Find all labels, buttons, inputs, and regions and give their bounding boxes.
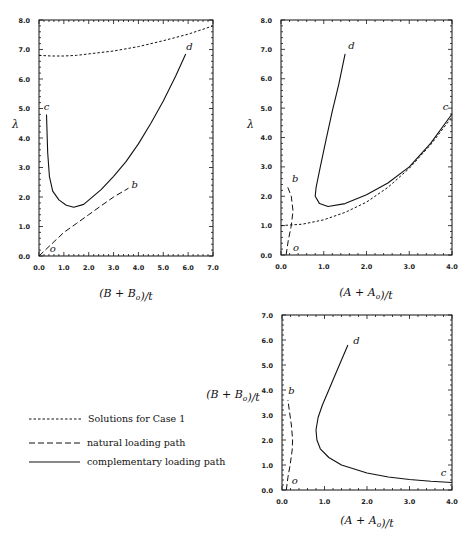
x-tick-label: 2.0 [361,263,373,271]
legend-label-complementary: complementary loading path [87,456,225,467]
y-tick-label: 3.0 [261,412,273,420]
y-tick-label: 8.0 [18,17,30,25]
y-tick-label: 7.0 [261,312,273,320]
x-tick-label: 3.0 [404,498,416,506]
point-label-c: c [44,101,50,112]
legend-label-case1: Solutions for Case 1 [88,413,185,424]
point-label-d: d [348,40,354,51]
plot-frame [39,20,213,256]
y-tick-label: 3.0 [260,163,272,171]
y-tick-label: 4.0 [260,134,272,142]
y-tick-label: 8.0 [260,17,272,25]
y-tick-label: 4.0 [261,387,273,395]
chart-b-vs-a: 0.01.02.03.04.00.01.02.03.04.05.06.07.0(… [206,312,458,530]
x-tick-label: 4.0 [133,264,145,272]
y-tick-label: 5.0 [18,105,30,113]
x-tick-label: 4.0 [446,263,458,271]
y-tick-label: 3.0 [18,164,30,172]
x-tick-label: 2.0 [361,498,373,506]
point-label-c: c [441,467,447,478]
y-axis-label: λ [11,118,19,131]
legend-item-complementary: complementary loading path [29,456,225,467]
point-label-d: d [353,335,359,346]
y-tick-label: 5.0 [261,362,273,370]
x-tick-label: 1.0 [58,264,70,272]
chart-lambda-vs-a: 0.01.02.03.04.00.01.02.03.04.05.06.07.08… [246,17,458,302]
y-tick-label: 6.0 [18,76,30,84]
y-tick-label: 2.0 [261,437,273,445]
series-solid [316,345,452,483]
y-tick-label: 0.0 [260,252,272,260]
x-axis-label: (A + Ao)/t [340,514,394,530]
y-tick-label: 1.0 [18,223,30,231]
y-tick-label: 7.0 [260,46,272,54]
point-label-o: o [50,243,56,254]
y-tick-label: 6.0 [260,75,272,83]
plot-frame [281,20,452,255]
y-tick-label: 0.0 [261,487,273,495]
x-tick-label: 0.0 [276,498,288,506]
y-axis-label: λ [246,118,254,131]
x-axis-label: (B + Bo)/t [99,287,153,303]
point-label-o: o [292,475,298,486]
y-tick-label: 7.0 [18,46,30,54]
point-label-b: b [292,173,298,184]
tick-marks [282,315,452,490]
legend-item-case1: Solutions for Case 1 [29,413,185,424]
x-tick-label: 5.0 [158,264,170,272]
y-tick-label: 5.0 [260,105,272,113]
y-tick-label: 1.0 [261,462,273,470]
y-axis-label: (B + Bo)/t [206,388,260,404]
x-tick-label: 0.0 [275,263,287,271]
x-tick-label: 3.0 [108,264,120,272]
x-tick-label: 1.0 [319,498,331,506]
tick-marks [39,20,213,256]
tick-marks [281,20,452,255]
point-label-d: d [186,41,192,52]
legend-label-natural: natural loading path [87,437,185,448]
y-tick-label: 2.0 [18,194,30,202]
point-label-c: c [443,101,449,112]
x-tick-label: 0.0 [33,264,45,272]
y-tick-label: 6.0 [261,337,273,345]
legend: Solutions for Case 1 natural loading pat… [29,413,225,467]
y-tick-label: 1.0 [260,222,272,230]
y-tick-label: 4.0 [18,135,30,143]
x-axis-label: (A + Ao)/t [339,286,393,302]
chart-lambda-vs-b: 0.01.02.03.04.05.06.07.00.01.02.03.04.05… [11,17,219,303]
series-solid [47,54,186,207]
x-tick-label: 1.0 [318,263,330,271]
point-label-b: b [131,179,137,190]
x-tick-label: 6.0 [182,264,194,272]
y-tick-label: 0.0 [18,253,30,261]
series-dotted [281,117,452,226]
series-solid [315,54,452,207]
x-tick-label: 3.0 [403,263,415,271]
x-tick-label: 7.0 [207,264,219,272]
x-tick-label: 2.0 [83,264,95,272]
x-tick-label: 4.0 [446,498,458,506]
figure-canvas: 0.01.02.03.04.05.06.07.00.01.02.03.04.05… [0,0,471,537]
y-tick-label: 2.0 [260,193,272,201]
plot-frame [282,315,452,490]
legend-item-natural: natural loading path [29,437,185,448]
point-label-o: o [293,242,299,253]
point-label-b: b [288,385,294,396]
